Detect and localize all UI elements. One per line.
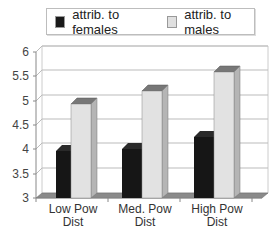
y-tick-labels: 6 5.5 5 4.5 4 3.5 3 <box>12 45 29 205</box>
y-tick-5: 5 <box>22 94 29 108</box>
bar-chart-plot: 6 5.5 5 4.5 4 3.5 3 <box>0 0 270 235</box>
x-label-low-line1: Low Pow <box>49 202 98 216</box>
x-label-high-line2: Dist <box>207 215 228 229</box>
y-tick-3.5: 3.5 <box>12 167 29 181</box>
x-label-high-line1: High Pow <box>191 202 243 216</box>
bar-low-males <box>71 98 97 198</box>
y-tick-4.5: 4.5 <box>12 118 29 132</box>
x-label-med-line2: Dist <box>135 215 156 229</box>
bar-high-males <box>214 66 240 198</box>
y-tick-3: 3 <box>22 191 29 205</box>
y-tick-6: 6 <box>22 45 29 59</box>
x-category-labels: Low Pow Dist Med. Pow Dist High Pow Dist <box>49 202 243 229</box>
y-tick-4: 4 <box>22 142 29 156</box>
y-tick-5.5: 5.5 <box>12 69 29 83</box>
bar-med-males <box>142 85 168 198</box>
x-label-low-line2: Dist <box>63 215 84 229</box>
x-label-med-line1: Med. Pow <box>118 202 172 216</box>
